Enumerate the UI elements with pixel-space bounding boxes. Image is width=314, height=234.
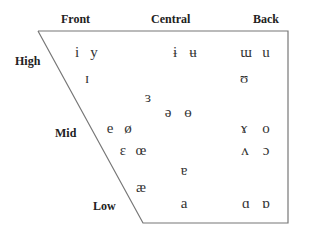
vowel-barred-u: ʉ [189,45,197,60]
vowel-barred-i: ɨ [173,45,177,60]
vowel-y: y [90,45,98,60]
vowel-reversed-epsilon: ɜ [145,90,151,105]
vowel-barred-o: ɵ [184,105,192,120]
vowel-schwa: ə [165,105,172,120]
column-label-front: Front [61,13,90,25]
vowel-open-o: ɔ [263,143,270,158]
column-label-central: Central [151,13,190,25]
vowel-turned-m: ɯ [240,45,252,60]
vowel-epsilon: ɛ [120,143,126,158]
row-label-low: Low [93,200,116,212]
vowel-o-slash: ø [124,121,132,136]
vowel-script-a: ɑ [242,196,250,211]
row-label-mid: Mid [55,127,76,139]
vowel-turned-a: ɐ [181,163,188,178]
vowel-upsilon: ʊ [240,71,248,86]
vowel-oe-ligature: œ [136,143,147,158]
vowel-turned-v: ʌ [241,143,249,158]
vowel-u: u [262,45,270,60]
vowel-ram-horns: ɤ [241,121,248,136]
vowel-i: i [75,45,79,60]
row-label-high: High [15,55,40,67]
vowel-a: a [181,196,188,211]
vowel-o: o [262,121,270,136]
column-label-back: Back [253,13,279,25]
vowel-small-cap-i: ɪ [85,71,89,86]
vowel-turned-script-a: ɒ [262,196,270,211]
vowel-ae: æ [136,180,146,195]
vowel-e: e [107,121,114,136]
